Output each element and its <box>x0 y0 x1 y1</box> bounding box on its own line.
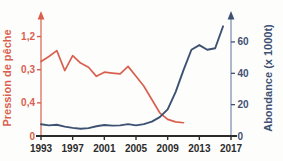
right-axis-title: Abondance (x 1000t) <box>262 24 274 132</box>
chart-container: 00,40,31,2 0204060 199319972001200520092… <box>0 0 283 161</box>
x-tick-label: 2017 <box>220 143 243 154</box>
left-axis-title: Pression de pêche <box>1 29 13 126</box>
x-tick-label: 1997 <box>62 143 85 154</box>
left-tick-label: 1,2 <box>21 31 35 42</box>
right-tick-label: 20 <box>238 99 250 110</box>
x-tick-label: 2013 <box>188 143 211 154</box>
x-tick-label: 2001 <box>93 143 116 154</box>
right-tick-label: 60 <box>238 36 250 47</box>
x-tick-label: 2005 <box>125 143 148 154</box>
right-tick-label: 0 <box>238 131 244 142</box>
x-tick-label: 1993 <box>30 143 53 154</box>
left-tick-label: 0,3 <box>21 64 35 75</box>
x-tick-label: 2009 <box>157 143 180 154</box>
left-tick-label: 0 <box>29 131 35 142</box>
left-tick-label: 0,4 <box>21 97 35 108</box>
dual-axis-line-chart: 00,40,31,2 0204060 199319972001200520092… <box>0 0 283 161</box>
right-tick-label: 40 <box>238 68 250 79</box>
